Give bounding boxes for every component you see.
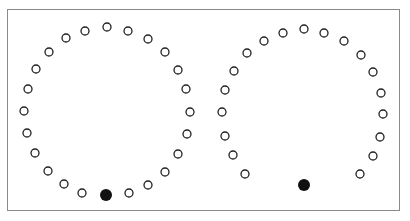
open-dot	[62, 34, 70, 42]
open-dot	[81, 27, 89, 35]
open-dot	[31, 149, 39, 157]
open-dot	[60, 180, 68, 188]
open-dot	[20, 107, 28, 115]
open-dot	[174, 66, 182, 74]
open-dot	[161, 48, 169, 56]
filled-dot	[298, 179, 310, 191]
open-dot	[183, 130, 191, 138]
open-dot	[24, 85, 32, 93]
open-dot	[377, 89, 385, 97]
right-ring	[218, 25, 387, 191]
open-dot	[161, 168, 169, 176]
open-dot	[241, 170, 249, 178]
open-dot	[376, 133, 384, 141]
left-ring	[20, 23, 194, 201]
open-dot	[320, 29, 328, 37]
open-dot	[356, 170, 364, 178]
open-dot	[300, 25, 308, 33]
open-dot	[379, 110, 387, 118]
open-dot	[369, 152, 377, 160]
open-dot	[45, 48, 53, 56]
open-dot	[144, 181, 152, 189]
open-dot	[357, 51, 365, 59]
open-dot	[23, 129, 31, 137]
open-dot	[279, 29, 287, 37]
open-dot	[369, 68, 377, 76]
open-dot	[182, 85, 190, 93]
open-dot	[78, 189, 86, 197]
open-dot	[124, 27, 132, 35]
open-dot	[218, 108, 226, 116]
open-dot	[44, 167, 52, 175]
open-dot	[340, 37, 348, 45]
open-dot	[144, 35, 152, 43]
open-dot	[230, 67, 238, 75]
open-dot	[32, 65, 40, 73]
open-dot	[229, 151, 237, 159]
open-dot	[243, 49, 251, 57]
open-dot	[260, 37, 268, 45]
filled-dot	[100, 189, 112, 201]
open-dot	[221, 86, 229, 94]
dot-rings-diagram	[0, 0, 410, 221]
open-dot	[103, 23, 111, 31]
open-dot	[186, 108, 194, 116]
open-dot	[174, 150, 182, 158]
open-dot	[125, 189, 133, 197]
open-dot	[221, 132, 229, 140]
